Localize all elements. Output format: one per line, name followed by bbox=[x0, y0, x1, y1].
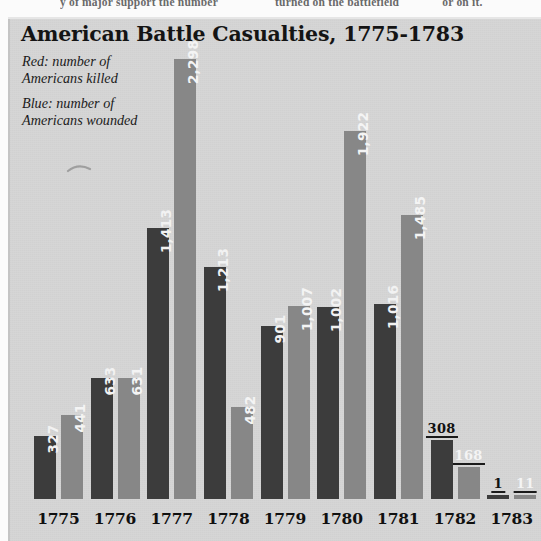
x-axis-label-1777: 1777 bbox=[143, 509, 200, 533]
bar-killed-1781[interactable]: 1,016 bbox=[374, 304, 396, 499]
page-text-bleed: y of major support the number turned on … bbox=[0, 0, 541, 12]
bar-wounded-1783[interactable]: 11 bbox=[514, 495, 536, 499]
bar-killed-1780[interactable]: 1,002 bbox=[317, 307, 339, 499]
bar-wounded-1777[interactable]: 2,298 bbox=[174, 59, 196, 499]
bar-value-killed-1781: 1,016 bbox=[385, 285, 401, 329]
bar-value-killed-1779: 901 bbox=[272, 314, 288, 343]
bar-wounded-1780[interactable]: 1,922 bbox=[344, 131, 366, 499]
bar-value-killed-1778: 1,213 bbox=[215, 248, 231, 292]
bar-value-killed-1780: 1,002 bbox=[328, 288, 344, 332]
bar-killed-1777[interactable]: 1,413 bbox=[147, 228, 169, 499]
bar-value-killed-1783: 1 bbox=[494, 476, 503, 491]
bar-value-wounded-1776: 631 bbox=[129, 366, 145, 395]
bar-value-wounded-1778: 482 bbox=[242, 395, 258, 424]
bar-group-1775: 327441 bbox=[30, 29, 87, 499]
bar-killed-1775[interactable]: 327 bbox=[34, 436, 56, 499]
bar-value-wounded-1779: 1,007 bbox=[299, 287, 315, 331]
x-axis-label-1783: 1783 bbox=[483, 509, 540, 533]
bar-wounded-1781[interactable]: 1,485 bbox=[401, 215, 423, 499]
bar-killed-1782[interactable]: 308 bbox=[431, 440, 453, 499]
bleed-fragment-3: or on it. bbox=[442, 0, 482, 8]
chart-page: y of major support the number turned on … bbox=[0, 0, 541, 541]
bar-group-1783: 111 bbox=[483, 29, 540, 499]
bleed-fragment-1: y of major support the number bbox=[60, 0, 218, 8]
bleed-fragment-2: turned on the battlefield bbox=[275, 0, 399, 8]
bar-value-killed-1776: 633 bbox=[102, 366, 118, 395]
x-axis-labels: 177517761777177817791780178117821783 bbox=[30, 509, 540, 533]
bar-group-1780: 1,0021,922 bbox=[313, 29, 370, 499]
bar-value-wounded-1777: 2,298 bbox=[185, 40, 201, 84]
bar-group-1779: 9011,007 bbox=[257, 29, 314, 499]
bar-group-1776: 633631 bbox=[87, 29, 144, 499]
bar-value-wounded-1775: 441 bbox=[72, 403, 88, 432]
bar-group-1781: 1,0161,485 bbox=[370, 29, 427, 499]
x-axis-label-1776: 1776 bbox=[87, 509, 144, 533]
bar-killed-1778[interactable]: 1,213 bbox=[204, 267, 226, 499]
x-axis-label-1779: 1779 bbox=[257, 509, 314, 533]
bar-group-1782: 308168 bbox=[427, 29, 484, 499]
bar-value-killed-1775: 327 bbox=[45, 424, 61, 453]
bar-value-wounded-1783: 11 bbox=[516, 476, 535, 491]
bar-group-1778: 1,213482 bbox=[200, 29, 257, 499]
bar-wounded-1776[interactable]: 631 bbox=[118, 378, 140, 499]
x-axis-label-1778: 1778 bbox=[200, 509, 257, 533]
bar-value-killed-1782: 308 bbox=[428, 421, 456, 436]
chart-panel: American Battle Casualties, 1775-1783 Re… bbox=[8, 17, 541, 541]
bar-wounded-1775[interactable]: 441 bbox=[61, 415, 83, 499]
bar-groups: 3274416336311,4132,2981,2134829011,0071,… bbox=[30, 29, 540, 499]
x-axis-label-1775: 1775 bbox=[30, 509, 87, 533]
bar-value-wounded-1781: 1,485 bbox=[412, 196, 428, 240]
bar-wounded-1778[interactable]: 482 bbox=[231, 407, 253, 499]
bar-wounded-1779[interactable]: 1,007 bbox=[288, 306, 310, 499]
x-axis-label-1781: 1781 bbox=[370, 509, 427, 533]
bar-value-wounded-1782: 168 bbox=[455, 448, 483, 463]
bar-value-wounded-1780: 1,922 bbox=[355, 112, 371, 156]
bar-killed-1779[interactable]: 901 bbox=[261, 326, 283, 499]
bar-killed-1783[interactable]: 1 bbox=[487, 495, 509, 499]
x-axis-label-1782: 1782 bbox=[427, 509, 484, 533]
bar-wounded-1782[interactable]: 168 bbox=[458, 467, 480, 499]
panel-left-edge bbox=[8, 17, 10, 541]
bar-killed-1776[interactable]: 633 bbox=[91, 378, 113, 499]
bar-group-1777: 1,4132,298 bbox=[143, 29, 200, 499]
bar-value-killed-1777: 1,413 bbox=[158, 209, 174, 253]
x-axis-label-1780: 1780 bbox=[313, 509, 370, 533]
plot-area: 3274416336311,4132,2981,2134829011,0071,… bbox=[30, 17, 540, 541]
